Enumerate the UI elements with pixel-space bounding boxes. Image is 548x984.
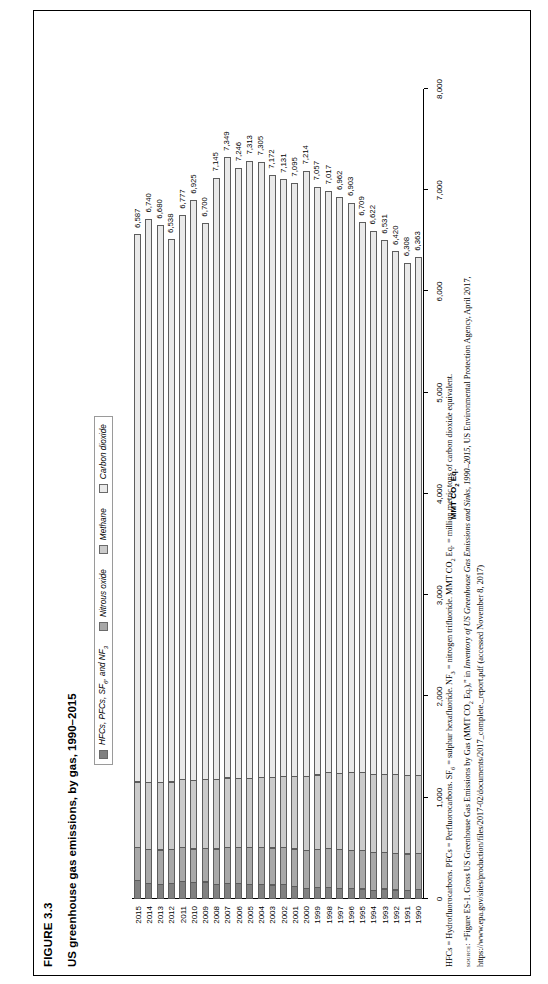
bar-segment bbox=[246, 884, 253, 899]
category-label-1990: 1990 bbox=[414, 901, 423, 924]
bar-segment bbox=[303, 850, 310, 889]
bar-segment bbox=[269, 777, 276, 848]
bar-segment bbox=[235, 883, 242, 899]
bar-segment bbox=[415, 889, 422, 899]
bar-segment bbox=[370, 852, 377, 891]
bar-segment bbox=[168, 883, 175, 899]
bar-segment bbox=[269, 175, 276, 778]
bar-segment bbox=[224, 778, 231, 848]
bar-segment bbox=[190, 849, 197, 884]
bar-value-label: 7,305 bbox=[256, 136, 265, 156]
bar-segment bbox=[415, 257, 422, 776]
category-label-2002: 2002 bbox=[279, 901, 288, 924]
bar-segment bbox=[314, 887, 321, 899]
category-label-2010: 2010 bbox=[189, 901, 198, 924]
axis-tick-label: 0 bbox=[435, 897, 444, 901]
bar-row bbox=[336, 194, 343, 899]
category-label-1992: 1992 bbox=[391, 901, 400, 924]
bar-value-label: 7,131 bbox=[279, 153, 288, 173]
bar-segment bbox=[224, 883, 231, 899]
bar-segment bbox=[157, 884, 164, 899]
bar-row bbox=[325, 189, 332, 899]
source-note: source: “Figure ES-1. Gross US Greenhous… bbox=[462, 23, 487, 967]
legend-swatch-hfcs-pfcs-sf6-nf3 bbox=[99, 750, 108, 759]
bar-segment bbox=[280, 847, 287, 885]
bar-segment bbox=[415, 775, 422, 854]
bar-value-label: 6,962 bbox=[335, 171, 344, 191]
legend-swatch-carbon-dioxide bbox=[99, 484, 108, 493]
axis-tick-label: 6,000 bbox=[435, 281, 444, 301]
category-label-1997: 1997 bbox=[335, 901, 344, 924]
bar-value-label: 7,313 bbox=[245, 135, 254, 155]
value-axis-line bbox=[423, 89, 424, 899]
axis-tick-label: 4,000 bbox=[435, 484, 444, 504]
bar-segment bbox=[213, 779, 220, 849]
bar-value-label: 6,903 bbox=[346, 177, 355, 197]
bar-segment bbox=[404, 854, 411, 891]
bar-row bbox=[179, 213, 186, 899]
bar-segment bbox=[168, 239, 175, 782]
axis-tick-label: 3,000 bbox=[435, 585, 444, 605]
bar-segment bbox=[392, 853, 399, 891]
bar-value-label: 6,622 bbox=[368, 205, 377, 225]
bar-segment bbox=[348, 888, 355, 899]
bar-segment bbox=[325, 848, 332, 888]
source-publication-title: Inventory of US Greenhouse Gas Emissions… bbox=[463, 448, 472, 669]
bar-segment bbox=[359, 222, 366, 773]
category-label-2007: 2007 bbox=[223, 901, 232, 924]
bar-value-label: 6,531 bbox=[380, 214, 389, 234]
axis-tick bbox=[424, 493, 428, 494]
legend-swatch-methane bbox=[99, 545, 108, 554]
bar-segment bbox=[157, 850, 164, 885]
bar-row bbox=[370, 229, 377, 899]
bar-segment bbox=[291, 849, 298, 887]
source-url: https://www.epa.gov/sites/production/fil… bbox=[476, 565, 485, 967]
bar-segment bbox=[145, 782, 152, 850]
legend-item-hfcs-pfcs-sf6-nf3: HFCs, PFCs, SF6, and NF3 bbox=[98, 646, 109, 759]
bar-value-label: 6,587 bbox=[133, 209, 142, 229]
bar-segment bbox=[235, 847, 242, 884]
bar-segment bbox=[246, 847, 253, 884]
category-label-2014: 2014 bbox=[144, 901, 153, 924]
bar-value-label: 6,420 bbox=[391, 225, 400, 245]
bar-segment bbox=[314, 187, 321, 775]
bar-value-label: 7,017 bbox=[324, 165, 333, 185]
bar-row bbox=[381, 238, 388, 899]
bar-segment bbox=[392, 774, 399, 853]
bar-segment bbox=[280, 179, 287, 776]
bar-value-label: 6,740 bbox=[144, 193, 153, 213]
bar-segment bbox=[325, 772, 332, 848]
bar-value-label: 7,246 bbox=[234, 142, 243, 162]
bar-segment bbox=[258, 884, 265, 899]
category-label-1993: 1993 bbox=[380, 901, 389, 924]
bar-segment bbox=[258, 162, 265, 778]
bar-segment bbox=[359, 850, 366, 889]
bar-segment bbox=[325, 191, 332, 773]
axis-tick-label: 7,000 bbox=[435, 180, 444, 200]
category-label-2009: 2009 bbox=[201, 901, 210, 924]
bar-row bbox=[145, 217, 152, 899]
bar-row bbox=[280, 177, 287, 899]
legend-label-methane: Methane bbox=[99, 508, 108, 540]
bar-segment bbox=[157, 782, 164, 850]
category-label-2015: 2015 bbox=[133, 901, 142, 924]
bar-segment bbox=[235, 778, 242, 848]
bar-segment bbox=[134, 880, 141, 899]
category-label-2005: 2005 bbox=[245, 901, 254, 924]
bar-segment bbox=[381, 852, 388, 890]
bar-segment bbox=[359, 772, 366, 851]
chart-legend: HFCs, PFCs, SF6, and NF3Nitrous oxideMet… bbox=[94, 416, 113, 765]
bar-segment bbox=[157, 225, 164, 783]
axis-tick bbox=[424, 392, 428, 393]
legend-item-carbon-dioxide: Carbon dioxide bbox=[99, 424, 108, 493]
bar-row bbox=[404, 260, 411, 899]
bar-segment bbox=[370, 231, 377, 775]
bar-row bbox=[258, 159, 265, 899]
bar-segment bbox=[381, 774, 388, 853]
bar-segment bbox=[213, 884, 220, 899]
bar-segment bbox=[246, 778, 253, 848]
axis-tick-label: 5,000 bbox=[435, 383, 444, 403]
rotated-figure-canvas: FIGURE 3.3 US greenhouse gas emissions, … bbox=[36, 13, 528, 973]
bar-value-label: 7,145 bbox=[211, 152, 220, 172]
axis-tick bbox=[424, 797, 428, 798]
